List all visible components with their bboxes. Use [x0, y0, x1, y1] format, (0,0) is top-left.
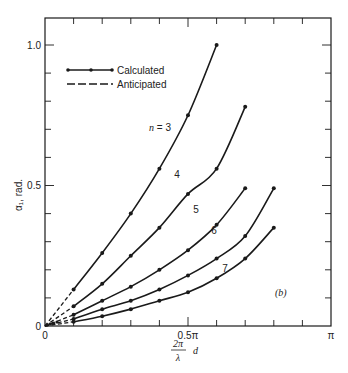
- data-point: [157, 167, 161, 171]
- x-tick-label: 0: [42, 330, 48, 341]
- data-point: [243, 186, 247, 190]
- data-point: [129, 212, 133, 216]
- data-point: [243, 234, 247, 238]
- data-point: [72, 313, 76, 317]
- data-point: [100, 282, 104, 286]
- data-point: [186, 192, 190, 196]
- legend-item-calculated: Calculated: [66, 65, 164, 76]
- data-point: [243, 257, 247, 261]
- plot-frame: [45, 18, 331, 326]
- data-point: [272, 186, 276, 190]
- curve-label: 5: [193, 204, 199, 215]
- curve-label: 7: [222, 263, 228, 274]
- calculated-curve: [74, 188, 246, 314]
- data-point: [129, 299, 133, 303]
- data-point: [100, 299, 104, 303]
- data-point: [157, 226, 161, 230]
- data-point: [72, 304, 76, 308]
- data-point: [72, 320, 76, 324]
- data-point: [129, 254, 133, 258]
- data-point: [186, 290, 190, 294]
- data-point: [186, 248, 190, 252]
- y-tick-label: 1.0: [27, 40, 41, 51]
- y-axis-label: α₁, rad.: [13, 179, 24, 211]
- series-n-6: [45, 186, 276, 326]
- data-point: [129, 285, 133, 289]
- data-point: [215, 276, 219, 280]
- y-axis-title: α₁, rad.: [13, 179, 24, 211]
- data-point: [100, 307, 104, 311]
- data-point: [129, 307, 133, 311]
- data-point: [157, 268, 161, 272]
- legend: Calculated Anticipated: [66, 65, 166, 90]
- data-point: [72, 287, 76, 291]
- x-label-suffix: d: [193, 345, 199, 356]
- x-label-numerator: 2π: [173, 338, 184, 349]
- x-axis-label: 2π λ d: [171, 338, 199, 363]
- data-point: [272, 226, 276, 230]
- chart-canvas: 00.51.000.5ππ n = 34567 Calculated Antic…: [0, 0, 348, 373]
- axis-tick-labels: 00.51.000.5ππ: [27, 40, 334, 342]
- y-tick-label: 0: [35, 321, 41, 332]
- data-point: [215, 257, 219, 261]
- legend-item-anticipated: Anticipated: [67, 79, 166, 90]
- x-tick-label: π: [328, 330, 335, 341]
- x-label-denominator: λ: [175, 352, 181, 363]
- legend-label-anticipated: Anticipated: [117, 79, 166, 90]
- data-point: [186, 113, 190, 117]
- curve-label: n = 3: [149, 122, 171, 133]
- legend-label-calculated: Calculated: [117, 65, 164, 76]
- series-n-4: [45, 105, 247, 326]
- data-point: [100, 251, 104, 255]
- panel-label: (b): [275, 287, 287, 299]
- y-tick-label: 0.5: [27, 180, 41, 191]
- data-point: [186, 273, 190, 277]
- data-point: [215, 43, 219, 47]
- curve-label: 4: [174, 169, 180, 180]
- data-point: [157, 287, 161, 291]
- data-point: [243, 105, 247, 109]
- data-point: [100, 314, 104, 318]
- data-point: [215, 167, 219, 171]
- calculated-curve: [74, 228, 274, 322]
- curve-label: 6: [211, 225, 217, 236]
- axis-ticks: [45, 18, 331, 326]
- data-point: [157, 299, 161, 303]
